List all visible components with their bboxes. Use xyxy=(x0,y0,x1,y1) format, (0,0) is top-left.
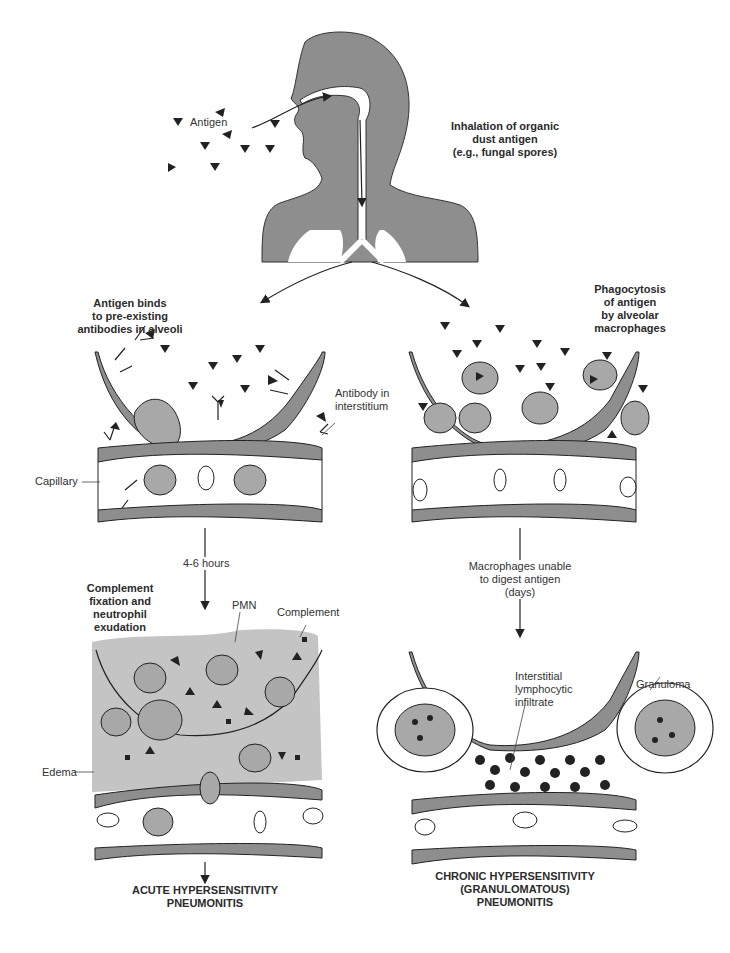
label-pmn: PMN xyxy=(232,599,256,612)
label-inhalation: Inhalation of organic dust antigen (e.g.… xyxy=(430,120,580,159)
label-capillary: Capillary xyxy=(35,475,78,488)
label-granuloma: Granuloma xyxy=(636,678,690,691)
label-complement-step: Complement fixation and neutrophil exuda… xyxy=(80,582,160,634)
acute-panel xyxy=(92,629,323,882)
label-left-time: 4-6 hours xyxy=(183,557,229,570)
label-antigen: Antigen xyxy=(190,116,227,129)
label-acute-outcome: ACUTE HYPERSENSITIVITY PNEUMONITIS xyxy=(120,884,290,910)
arrow-left-branch xyxy=(262,262,352,302)
label-right-time: Macrophages unable to digest antigen (da… xyxy=(465,560,575,599)
diagram-figure xyxy=(0,0,730,953)
label-left-step: Antigen binds to pre-existing antibodies… xyxy=(70,297,190,336)
alveolus-macrophage-panel xyxy=(409,322,649,522)
label-antibody-interstitium: Antibody in interstitium xyxy=(335,387,389,413)
alveolus-antibody-panel xyxy=(95,326,328,522)
label-complement: Complement xyxy=(277,606,339,619)
label-edema: Edema xyxy=(42,766,77,779)
arrow-right-branch xyxy=(372,262,468,306)
label-right-step: Phagocytosis of antigen by alveolar macr… xyxy=(580,283,680,335)
label-chronic-outcome: CHRONIC HYPERSENSITIVITY (GRANULOMATOUS)… xyxy=(425,870,605,909)
label-interstitial: Interstitial lymphocytic infiltrate xyxy=(515,670,572,709)
